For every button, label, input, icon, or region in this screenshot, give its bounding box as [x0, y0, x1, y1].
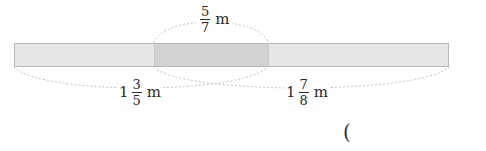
tape-overlap-segment	[154, 43, 268, 67]
left-piece-fraction: 3 5	[132, 78, 142, 107]
right-piece-fraction: 7 8	[299, 78, 309, 107]
right-piece-unit: m	[314, 85, 328, 100]
overlap-denominator: 7	[200, 20, 210, 34]
right-piece-denominator: 8	[299, 93, 309, 107]
overlap-numerator: 5	[200, 5, 210, 19]
tape-right-segment	[268, 43, 449, 67]
left-piece-unit: m	[147, 85, 161, 100]
left-piece-length-label: 1 3 5 m	[117, 78, 163, 107]
left-piece-numerator: 3	[132, 78, 142, 92]
tape-left-segment	[14, 43, 154, 67]
right-piece-length-label: 1 7 8 m	[284, 78, 330, 107]
right-piece-whole: 1	[286, 85, 296, 100]
tape-diagram	[0, 0, 486, 151]
overlap-unit: m	[215, 12, 229, 27]
answer-blank-paren: (	[343, 120, 351, 144]
right-piece-numerator: 7	[299, 78, 309, 92]
overlap-fraction: 5 7	[200, 5, 210, 34]
overlap-length-label: 5 7 m	[196, 5, 232, 34]
left-piece-denominator: 5	[132, 93, 142, 107]
left-piece-whole: 1	[119, 85, 129, 100]
